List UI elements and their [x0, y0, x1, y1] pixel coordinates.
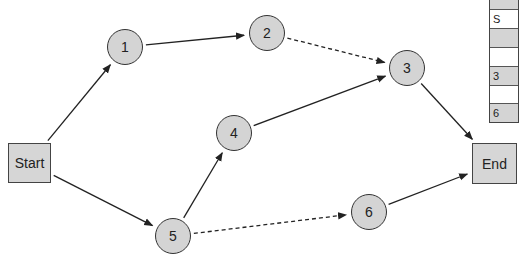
- edge-3-to-end: [421, 83, 472, 139]
- table-row: S: [490, 10, 518, 29]
- end-node[interactable]: End: [472, 143, 517, 184]
- partial-table: S 3 6: [489, 0, 519, 123]
- activity-node-5[interactable]: 5: [155, 218, 191, 254]
- table-row: [490, 29, 518, 48]
- table-row: [490, 0, 518, 10]
- edge-2-to-3: [287, 38, 384, 62]
- start-node[interactable]: Start: [8, 143, 51, 183]
- table-row: [490, 86, 518, 104]
- edge-5-to-4: [184, 153, 223, 218]
- activity-node-1[interactable]: 1: [107, 29, 143, 65]
- edge-start-to-1: [48, 65, 111, 141]
- table-row: 3: [490, 67, 518, 86]
- edge-6-to-end: [389, 174, 468, 204]
- edge-start-to-5: [54, 175, 153, 225]
- activity-node-2[interactable]: 2: [249, 15, 285, 51]
- edge-4-to-3: [254, 76, 386, 126]
- activity-node-4[interactable]: 4: [216, 115, 252, 151]
- edge-1-to-2: [146, 35, 244, 45]
- table-row: 6: [490, 104, 518, 122]
- activity-node-6[interactable]: 6: [351, 194, 387, 230]
- activity-node-3[interactable]: 3: [389, 50, 425, 86]
- edge-5-to-6: [194, 215, 346, 234]
- table-row: [490, 48, 518, 67]
